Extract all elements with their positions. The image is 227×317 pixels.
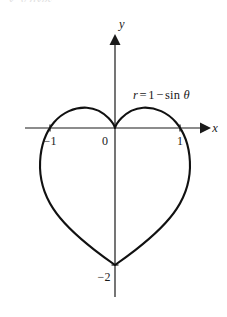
cardioid-plot: y x −1 0 1 −2: [0, 0, 227, 317]
tick-label-negative-two: −2: [98, 270, 111, 284]
y-axis-label: y: [117, 17, 125, 31]
equation-function: sin: [165, 88, 180, 102]
tick-label-positive-one: 1: [177, 134, 183, 148]
equation-minus: −: [155, 88, 165, 102]
figure-canvas: x, y axes y x −1 0 1 −2 r=1−sin θ: [0, 0, 227, 317]
x-axis-label: x: [211, 121, 218, 135]
equation-term-one: 1: [148, 88, 154, 102]
equation-equals: =: [138, 88, 148, 102]
y-axis-arrow-icon: [110, 34, 121, 45]
tick-label-origin: 0: [102, 134, 108, 148]
x-axis-arrow-icon: [200, 123, 211, 134]
equation-annotation: r=1−sin θ: [133, 88, 190, 103]
equation-variable: θ: [184, 88, 190, 102]
tick-label-negative-one: −1: [44, 134, 57, 148]
